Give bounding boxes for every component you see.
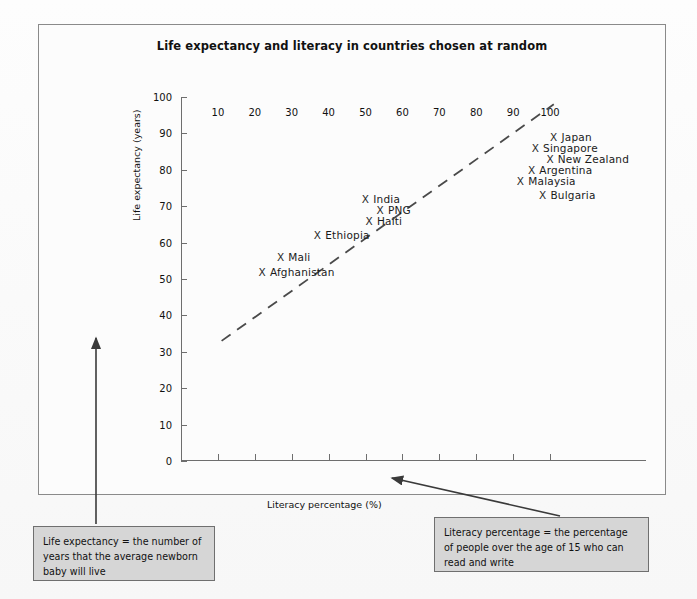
y-axis-title: Life expectancy (years): [131, 109, 142, 221]
point-marker-x-icon: X: [259, 266, 266, 278]
point-label: PNG: [388, 204, 411, 216]
data-point: XMalaysia: [517, 175, 576, 187]
point-label: Japan: [561, 131, 591, 143]
y-tick: [181, 461, 187, 462]
point-marker-x-icon: X: [314, 229, 321, 241]
point-marker-x-icon: X: [517, 175, 524, 187]
data-point: XJapan: [550, 131, 592, 143]
point-marker-x-icon: X: [532, 142, 539, 154]
data-point: XPNG: [377, 204, 411, 216]
data-point: XMali: [277, 251, 311, 263]
point-marker-x-icon: X: [366, 215, 373, 227]
y-tick-label: 50: [159, 274, 172, 285]
data-point: XAfghanistan: [259, 266, 335, 278]
chart-frame: Life expectancy and literacy in countrie…: [38, 24, 666, 495]
data-point: XBulgaria: [539, 189, 596, 201]
point-label: Argentina: [539, 164, 592, 176]
point-label: Singapore: [543, 142, 598, 154]
point-marker-x-icon: X: [362, 193, 369, 205]
point-marker-x-icon: X: [550, 131, 557, 143]
y-tick-label: 10: [159, 419, 172, 430]
point-label: Bulgaria: [550, 189, 595, 201]
data-point: XEthiopia: [314, 229, 370, 241]
point-label: Haiti: [377, 215, 402, 227]
y-tick-label: 100: [153, 92, 172, 103]
point-label: Malaysia: [528, 175, 575, 187]
data-point: XNew Zealand: [546, 153, 629, 165]
life-expectancy-note: Life expectancy = the number of years th…: [33, 526, 215, 581]
y-tick-label: 80: [159, 164, 172, 175]
literacy-note: Literacy percentage = the percentage of …: [434, 517, 649, 572]
y-tick-label: 90: [159, 128, 172, 139]
x-axis-title: Literacy percentage (%): [267, 499, 382, 510]
y-tick-label: 30: [159, 346, 172, 357]
y-tick-label: 20: [159, 383, 172, 394]
point-marker-x-icon: X: [377, 204, 384, 216]
point-label: Ethiopia: [325, 229, 369, 241]
point-label: Mali: [288, 251, 310, 263]
y-tick-label: 60: [159, 237, 172, 248]
chart-title: Life expectancy and literacy in countrie…: [39, 39, 665, 53]
trend-line: [181, 97, 587, 461]
y-tick-label: 40: [159, 310, 172, 321]
point-marker-x-icon: X: [277, 251, 284, 263]
plot-area: 0102030405060708090100 10203040506070809…: [181, 97, 587, 461]
point-marker-x-icon: X: [528, 164, 535, 176]
y-tick-label: 0: [166, 456, 172, 467]
data-point: XSingapore: [532, 142, 598, 154]
point-marker-x-icon: X: [546, 153, 553, 165]
data-point: XHaiti: [366, 215, 403, 227]
point-label: New Zealand: [558, 153, 629, 165]
y-tick-label: 70: [159, 201, 172, 212]
point-marker-x-icon: X: [539, 189, 546, 201]
data-point: XArgentina: [528, 164, 592, 176]
point-label: Afghanistan: [270, 266, 335, 278]
